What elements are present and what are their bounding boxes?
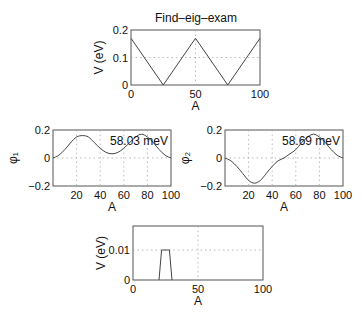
figure: Find–eig–exam 05010000.10.2AV (eV)204060…	[0, 0, 362, 312]
y-tick-label: 0	[44, 152, 50, 164]
x-tick-label: 100	[251, 88, 269, 100]
x-tick-label: 40	[94, 189, 106, 201]
x-tick-label: 100	[254, 283, 272, 295]
y-axis-label: V (eV)	[94, 236, 108, 270]
subplot-phi1: 20406080100−0.200.2Aφ₁58.03 meV	[6, 124, 180, 214]
subplot-perturbation: 05010000.01AV (eV)	[94, 226, 272, 308]
figure-title: Find–eig–exam	[155, 11, 237, 25]
x-tick-label: 0	[130, 283, 136, 295]
x-tick-label: 80	[313, 189, 325, 201]
y-tick-label: 0.2	[113, 24, 128, 36]
y-tick-label: −0.2	[200, 180, 222, 192]
x-tick-label: 100	[162, 189, 180, 201]
x-tick-label: 20	[242, 189, 254, 201]
x-tick-label: 60	[290, 189, 302, 201]
y-tick-label: 0.2	[207, 124, 222, 136]
x-tick-label: 80	[141, 189, 153, 201]
x-axis-label: A	[280, 200, 288, 214]
y-axis-label: V (eV)	[92, 40, 106, 74]
y-tick-label: 0.1	[113, 52, 128, 64]
y-tick-label: 0	[124, 274, 130, 286]
x-tick-label: 0	[128, 88, 134, 100]
x-axis-label: A	[191, 99, 199, 113]
x-tick-label: 20	[70, 189, 82, 201]
x-axis-label: A	[108, 200, 116, 214]
y-tick-label: 0	[122, 79, 128, 91]
y-tick-label: 0	[216, 152, 222, 164]
energy-annotation: 58.03 meV	[110, 134, 168, 148]
subplot-potential: 05010000.10.2AV (eV)	[92, 24, 269, 113]
energy-annotation: 58.69 meV	[282, 134, 340, 148]
y-axis-label: φ₂	[178, 151, 192, 164]
y-tick-label: −0.2	[28, 180, 50, 192]
subplot-phi2: 20406080100−0.200.2Aφ₂58.69 meV	[178, 124, 352, 214]
x-axis-label: A	[194, 294, 202, 308]
y-axis-label: φ₁	[6, 152, 20, 164]
x-tick-label: 100	[334, 189, 352, 201]
y-tick-label: 0.01	[109, 244, 130, 256]
x-tick-label: 40	[266, 189, 278, 201]
y-tick-label: 0.2	[35, 124, 50, 136]
x-tick-label: 60	[118, 189, 130, 201]
